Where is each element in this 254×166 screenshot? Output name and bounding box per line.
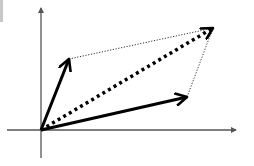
vector-a xyxy=(41,59,69,130)
resultant-vector xyxy=(41,28,213,130)
vector-diagram xyxy=(0,0,254,166)
vector-b xyxy=(41,97,187,130)
construction-line-b xyxy=(187,28,213,97)
construction-line-a xyxy=(69,28,213,59)
